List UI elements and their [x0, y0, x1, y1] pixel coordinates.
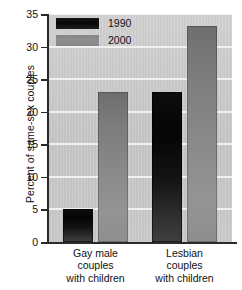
y-tick-label-20: 20	[12, 107, 38, 118]
y-tick-label-5: 5	[12, 204, 38, 215]
legend-label-2000: 2000	[108, 35, 131, 46]
bar-chart: Percent of same-sex couples 051015202530…	[0, 0, 242, 290]
bar-2000-2	[187, 26, 217, 242]
y-tick-30	[41, 47, 47, 49]
y-tick-label-25: 25	[12, 74, 38, 85]
y-axis-line	[47, 14, 49, 243]
y-tick-label-15: 15	[12, 139, 38, 150]
legend-label-1990: 1990	[108, 18, 131, 29]
y-tick-label-35: 35	[12, 9, 38, 20]
bar-1990-1	[63, 209, 93, 242]
category-label-2-line-1: Lesbian	[137, 247, 233, 259]
x-axis-line	[41, 242, 237, 244]
bar-2000-1	[98, 92, 128, 242]
legend-swatch-2000-icon	[56, 35, 99, 46]
category-label-1-line-3: with children	[48, 272, 144, 284]
legend-item-2000: 2000	[56, 34, 131, 46]
y-tick-20	[41, 112, 47, 114]
y-tick-label-0: 0	[12, 237, 38, 248]
category-label-1: Gay malecoupleswith children	[48, 247, 144, 284]
y-tick-35	[41, 14, 47, 16]
category-label-1-line-1: Gay male	[48, 247, 144, 259]
category-label-2-line-3: with children	[137, 272, 233, 284]
category-label-1-line-2: couples	[48, 259, 144, 271]
category-label-2-line-2: couples	[137, 259, 233, 271]
gridline-35	[48, 14, 232, 15]
legend-item-1990: 1990	[56, 17, 131, 29]
y-tick-25	[41, 79, 47, 81]
y-tick-5	[41, 209, 47, 211]
category-label-2: Lesbiancoupleswith children	[137, 247, 233, 284]
y-tick-label-30: 30	[12, 42, 38, 53]
y-tick-10	[41, 177, 47, 179]
legend-swatch-1990-icon	[56, 18, 99, 29]
y-tick-label-10: 10	[12, 172, 38, 183]
legend: 1990 2000	[56, 17, 160, 51]
y-tick-15	[41, 144, 47, 146]
bar-1990-2	[152, 92, 182, 242]
y-tick-0	[41, 242, 47, 244]
